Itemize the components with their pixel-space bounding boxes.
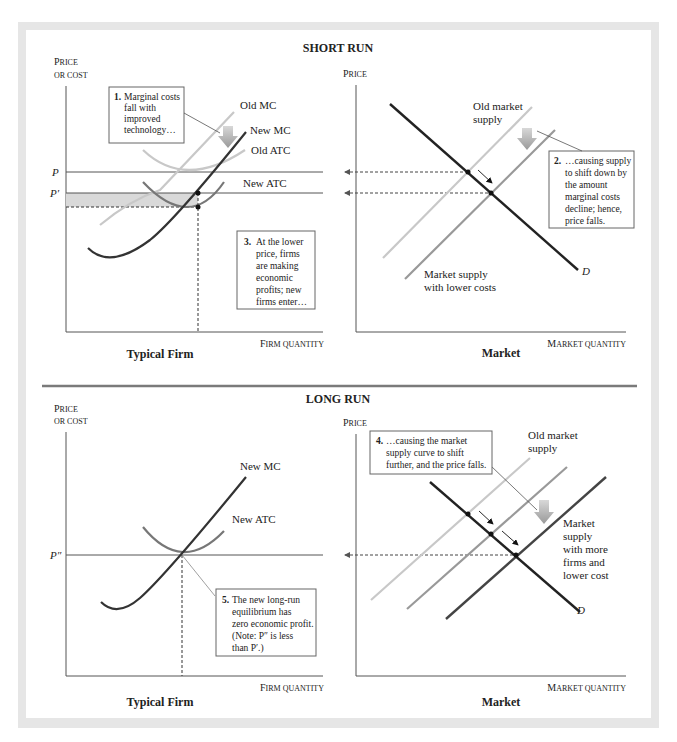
old-supply-label: Old market — [528, 429, 578, 441]
market-caption: Market — [482, 346, 521, 360]
y-axis-label: PRICE — [54, 56, 78, 67]
new-supply-label-2: with lower costs — [424, 281, 496, 293]
new-mc-label: New MC — [240, 460, 281, 472]
y-axis-label: PRICE — [343, 68, 367, 79]
x-axis-label: MARKET QUANTITY — [547, 682, 626, 693]
old-mc-label: Old MC — [240, 99, 276, 111]
x-axis-label: MARKET QUANTITY — [547, 338, 626, 349]
old-atc-label: Old ATC — [251, 144, 290, 156]
old-supply-label-2: supply — [473, 113, 503, 125]
market-caption: Market — [482, 695, 521, 709]
new-mc-label: New MC — [250, 124, 291, 136]
p-prime-label: P′ — [49, 187, 60, 199]
new-supply-label: Market supply — [424, 268, 488, 280]
p-label: P — [51, 166, 59, 178]
long-run-title: LONG RUN — [306, 392, 371, 406]
demand-label: D — [576, 604, 585, 616]
demand-label: D — [581, 265, 590, 277]
old-supply-label: Old market — [473, 100, 523, 112]
old-supply-label-2: supply — [528, 442, 558, 454]
firm-caption: Typical Firm — [127, 695, 194, 709]
y-axis-label: PRICE — [343, 417, 367, 428]
short-run-title: SHORT RUN — [303, 41, 374, 55]
new-atc-label: New ATC — [232, 513, 276, 525]
y-axis-label-2: OR COST — [54, 71, 88, 80]
x-axis-label: FIRM QUANTITY — [260, 338, 324, 349]
x-axis-label: FIRM QUANTITY — [260, 682, 324, 693]
new-atc-label: New ATC — [243, 177, 287, 189]
figure-canvas: SHORT RUN PRICE OR COST P P′ Old MC New … — [0, 0, 677, 742]
firm-caption: Typical Firm — [127, 347, 194, 361]
y-axis-label: PRICE — [54, 403, 78, 414]
y-axis-label-2: OR COST — [54, 417, 88, 426]
p-double-prime-label: P″ — [49, 549, 62, 561]
